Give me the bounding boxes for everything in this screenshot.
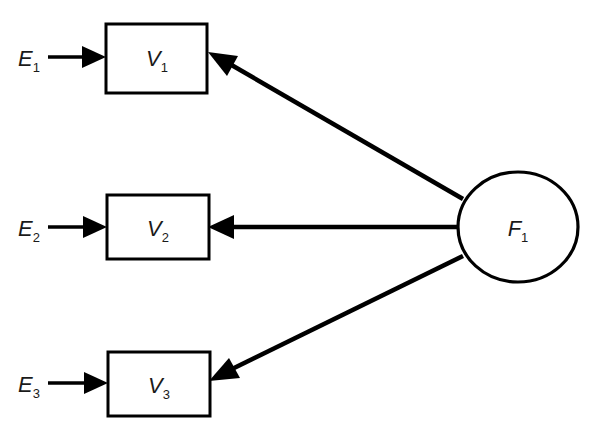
path-diagram-svg: V1 V2 V3 F1 E1 E2 <box>0 0 591 437</box>
error-path-group <box>48 46 108 394</box>
node-E2-label: E2 <box>18 216 40 245</box>
node-F1[interactable]: F1 <box>458 172 578 282</box>
path-F1-V1[interactable] <box>208 52 463 199</box>
node-E3[interactable]: E3 <box>18 372 40 401</box>
node-E1[interactable]: E1 <box>18 46 40 75</box>
indicator-group: V1 V2 V3 <box>106 24 210 416</box>
node-E1-label: E1 <box>18 46 40 75</box>
node-V2[interactable]: V2 <box>107 195 209 259</box>
path-E2-V2[interactable] <box>48 216 107 238</box>
path-F1-V3-line <box>230 256 463 370</box>
node-E2[interactable]: E2 <box>18 216 40 245</box>
path-diagram-canvas: V1 V2 V3 F1 E1 E2 <box>0 0 591 437</box>
path-F1-V1-line <box>228 63 463 199</box>
node-V1[interactable]: V1 <box>106 24 207 93</box>
path-F1-V2-arrowhead <box>208 215 234 239</box>
node-E3-label: E3 <box>18 372 40 401</box>
path-E3-V3[interactable] <box>48 372 108 394</box>
path-F1-V2[interactable] <box>208 215 460 239</box>
factor-node-group: F1 <box>458 172 578 282</box>
path-F1-V3[interactable] <box>209 256 463 381</box>
path-E3-V3-arrowhead <box>84 372 108 394</box>
factor-loading-group <box>208 52 463 381</box>
path-F1-V1-arrowhead <box>208 52 238 76</box>
path-E2-V2-arrowhead <box>83 216 107 238</box>
error-label-group: E1 E2 E3 <box>18 46 40 401</box>
path-E1-V1-arrowhead <box>82 46 106 68</box>
node-V3[interactable]: V3 <box>108 352 210 416</box>
path-E1-V1[interactable] <box>48 46 106 68</box>
